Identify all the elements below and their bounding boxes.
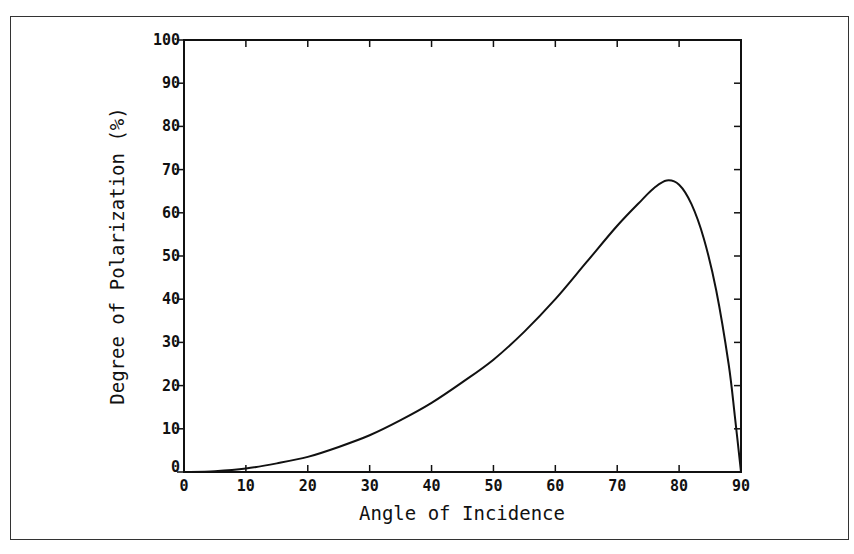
y-axis-title: Degree of Polarization (%)	[106, 107, 128, 404]
x-tick-label: 60	[546, 477, 564, 495]
x-tick-label: 80	[670, 477, 688, 495]
x-tick-label: 50	[484, 477, 502, 495]
y-tick-label: 80	[162, 117, 180, 135]
x-tick-label: 90	[732, 477, 750, 495]
x-tick-label: 0	[179, 477, 188, 495]
x-axis-ticks: 0102030405060708090	[179, 40, 750, 495]
y-tick-label: 60	[162, 204, 180, 222]
x-tick-label: 70	[608, 477, 626, 495]
x-tick-label: 10	[237, 477, 255, 495]
y-tick-label: 100	[153, 31, 180, 49]
x-tick-label: 20	[299, 477, 317, 495]
polarization-chart: 0102030405060708090 01020304050607080901…	[0, 0, 854, 554]
y-tick-label: 70	[162, 161, 180, 179]
x-tick-label: 30	[361, 477, 379, 495]
y-tick-label: 30	[162, 333, 180, 351]
y-tick-label: 0	[171, 458, 180, 476]
x-axis-title: Angle of Incidence	[359, 502, 565, 524]
y-tick-label: 10	[162, 420, 180, 438]
polarization-curve	[184, 180, 741, 472]
x-tick-label: 40	[423, 477, 441, 495]
y-tick-label: 20	[162, 377, 180, 395]
plot-area	[184, 40, 741, 472]
y-tick-label: 90	[162, 74, 180, 92]
y-tick-label: 40	[162, 290, 180, 308]
y-axis-ticks: 0102030405060708090100	[153, 31, 741, 476]
y-tick-label: 50	[162, 247, 180, 265]
